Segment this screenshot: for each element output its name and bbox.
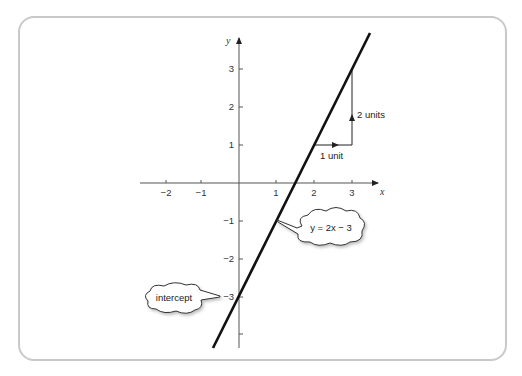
chart-plot: −2 −1 1 2 3 x 3 2 1 −1 −2 −3 y 1 unit 2 …	[0, 0, 522, 376]
y-axis-label: y	[225, 35, 231, 46]
y-tick-label: −3	[223, 291, 234, 302]
intercept-label: intercept	[156, 292, 193, 303]
x-tick-label: −1	[196, 187, 207, 198]
x-axis-label: x	[379, 186, 385, 197]
rise-label: 2 units	[357, 109, 385, 120]
y-tick-label: −2	[223, 253, 234, 264]
x-tick-label: −2	[161, 187, 172, 198]
x-tick-label: 1	[273, 187, 278, 198]
y-tick-label: 3	[229, 63, 234, 74]
run-label: 1 unit	[320, 150, 344, 161]
y-tick-label: 1	[229, 139, 234, 150]
y-tick-label: −1	[223, 215, 234, 226]
y-tick-label: 2	[229, 101, 234, 112]
x-tick-label: 3	[349, 187, 354, 198]
equation-label: y = 2x − 3	[310, 222, 352, 233]
line-y-equals-2x-minus-3	[213, 33, 370, 348]
x-tick-label: 2	[311, 187, 316, 198]
